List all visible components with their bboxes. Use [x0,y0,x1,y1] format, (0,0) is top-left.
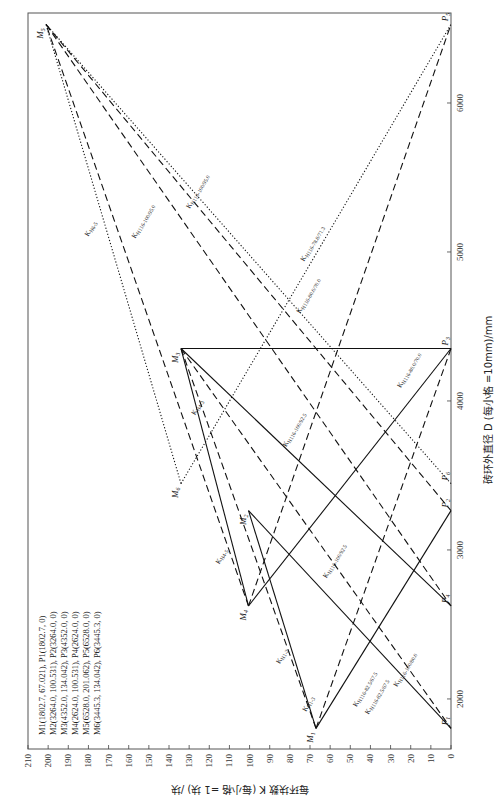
k-tick-label: 10 [426,754,436,764]
point-label: P3 [440,337,451,347]
point-label: P4 [440,594,451,604]
d-tick-label: 5000 [455,242,465,260]
series-line [181,24,451,483]
k-tick-label: 180 [83,754,93,768]
d-axis-ticks: 20003000400050006000 [447,93,465,707]
series-line [316,349,451,729]
k-tick-label: 130 [184,754,194,768]
legend-entry: M2(3264.0, 100.531), P2(3264.0, 0) [48,611,58,735]
legend-entry: M4(2624.0, 100.531), P4(2624.0, 0) [70,611,80,735]
series-line [46,24,181,483]
legend-entry: M6(3445.3, 134.042), P6(3445.3, 0) [92,611,102,735]
k-tick-label: 190 [63,754,73,768]
line-label: KH116-80.0/70.0 [295,276,322,315]
chart-lines [46,24,451,728]
k-tick-label: 50 [345,754,355,764]
series-line [181,349,451,606]
d-tick-label: 2000 [455,689,465,708]
series-line [46,24,248,606]
line-label: KH116-100/92.5 [281,411,308,449]
k-tick-label: 140 [164,754,174,768]
legend-entry: M3(4352.0, 134.042), P3(4352.0, 0) [59,611,69,735]
line-label: KH4-3 [190,398,206,417]
line-label: KH116-100/95.0 [130,202,157,240]
k-tick-label: 20 [406,754,416,764]
series-line [249,24,451,606]
chart: 0102030405060708090100110120130140150160… [0,0,502,799]
point-label: P2 [440,499,451,509]
k-tick-label: 70 [305,754,315,764]
y-axis-label: 每环块数 K (每小格 =1 块) /块 [171,784,309,796]
point-label: M5 [35,28,46,39]
k-tick-label: 200 [43,754,53,768]
line-label: KH6-5 [83,219,99,238]
legend-entry: M1(1802.7, 67.021), P1(1802.7, 0) [37,616,47,735]
series-line [181,349,249,606]
legend-entry: M5(6528.0, 201.062), P5(6528.0, 0) [81,611,91,735]
line-label: KH116-100/95.0 [184,173,211,211]
k-tick-label: 110 [224,754,234,768]
line-label: KH4-5 [214,547,230,566]
x-axis-label: 砖环外直径 D (每小格 =10mm)/mm [482,316,494,484]
k-tick-label: 100 [245,754,255,768]
series-line [249,349,451,606]
point-label: M1 [305,732,316,744]
series-line [46,24,451,483]
legend: M1(1802.7, 67.021), P1(1802.7, 0) M2(326… [37,611,102,735]
point-label: M4 [238,610,249,622]
point-label: M2 [238,515,249,527]
k-tick-label: 160 [124,754,134,768]
k-tick-label: 80 [285,754,295,764]
line-labels: KH1-3KH1-2KH116-82.5/67.5KH116-82.5/67.5… [83,173,423,716]
point-label: P5 [440,13,451,23]
line-label: KH116-100/92.5 [321,542,348,580]
point-label: M3 [170,353,181,365]
series-line [316,511,451,729]
series-line [181,349,451,729]
line-label: KH1-3 [301,695,317,714]
k-tick-label: 60 [325,754,335,764]
d-tick-label: 6000 [455,93,465,112]
k-tick-label: 0 [446,754,456,759]
k-tick-label: 210 [23,754,33,768]
line-label: KH116-80.0/70.0 [396,351,423,390]
series-line [249,511,451,729]
k-tick-label: 120 [204,754,214,768]
k-tick-label: 30 [386,754,396,764]
d-tick-label: 4000 [455,391,465,410]
k-tick-label: 40 [365,754,375,764]
d-tick-label: 3000 [455,540,465,559]
k-tick-label: 90 [265,754,275,764]
k-tick-label: 150 [144,754,154,768]
k-axis-ticks: 0102030405060708090100110120130140150160… [23,745,456,768]
series-line [249,511,316,729]
series-line [46,24,451,510]
point-label: M6 [170,488,181,500]
k-tick-label: 170 [104,754,114,768]
